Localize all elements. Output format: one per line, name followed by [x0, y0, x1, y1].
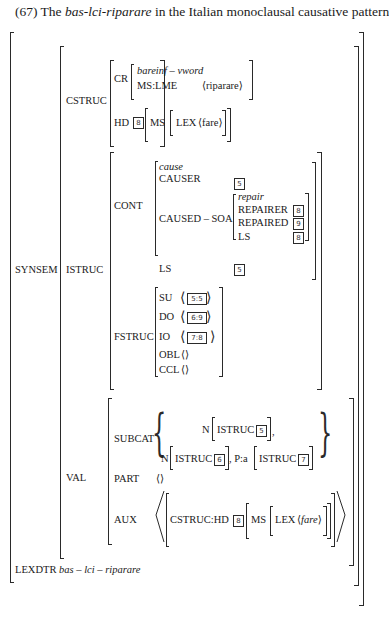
- cont-label: CONT: [114, 201, 143, 212]
- example-title: (67) The bas-lci-riparare in the Italian…: [15, 5, 389, 19]
- soa-ls-tag-box: 8: [293, 232, 304, 244]
- val-label: VAL: [66, 473, 86, 484]
- subcat-tag3-box: 7: [298, 454, 309, 466]
- cr-ms-lme-label: MS:LME: [137, 81, 177, 92]
- repairer-label: REPAIRER: [238, 205, 288, 216]
- istruc-label: ISTRUC: [66, 265, 103, 276]
- title-term: bas-lci-riparare: [65, 4, 152, 19]
- su-angle-open: ⟨: [180, 290, 185, 304]
- repaired-tag-box: 9: [293, 218, 304, 230]
- su-angle-close: ⟩: [206, 290, 211, 304]
- subcat-tag1-box: 5: [256, 425, 267, 437]
- io-angle-close: ⟩: [210, 329, 215, 343]
- su-tag-box: 5:5: [187, 293, 207, 305]
- aux-lex-value: ⟨fare⟩: [297, 515, 322, 526]
- do-label: DO: [159, 312, 174, 323]
- io-label: IO: [159, 332, 170, 343]
- io-angle-open: ⟨: [180, 329, 185, 343]
- do-angle-open: ⟨: [180, 309, 185, 323]
- aux-label: AUX: [114, 515, 137, 526]
- ccl-value: ⟨⟩: [181, 365, 189, 376]
- obl-label: OBL: [159, 350, 180, 361]
- aux-tag-box: 8: [233, 515, 244, 527]
- do-tag-box: 6:9: [187, 312, 207, 324]
- repairer-tag-box: 8: [293, 205, 304, 217]
- subcat-istruc2: ISTRUC: [175, 454, 212, 465]
- cont-ls-label: LS: [159, 264, 171, 275]
- hd-label: HD: [114, 118, 129, 129]
- cont-ls-tag-box: 5: [234, 264, 245, 276]
- title-prefix: (67) The: [15, 4, 65, 19]
- synsem-label: SYNSEM: [15, 265, 58, 276]
- aux-ms-label: MS: [251, 515, 266, 526]
- subcat-brace-open: {: [152, 408, 166, 458]
- part-label: PART: [114, 474, 139, 485]
- cstruc-label: CSTRUC: [66, 96, 107, 107]
- hd-lex-value: ⟨fare⟩: [198, 118, 223, 129]
- hd-ms-label: MS: [150, 118, 165, 129]
- do-angle-close: ⟩: [206, 309, 211, 323]
- fstruc-label: FSTRUC: [114, 332, 154, 343]
- part-value: ⟨⟩: [156, 474, 164, 485]
- ccl-label: CCL: [159, 365, 179, 376]
- subcat-label: SUBCAT: [114, 434, 154, 445]
- subcat-brace-close: }: [318, 408, 332, 458]
- aux-angle-close: [335, 490, 347, 550]
- cr-label: CR: [114, 74, 128, 85]
- su-label: SU: [159, 293, 172, 304]
- aux-lex-fare: fare: [301, 514, 318, 525]
- hd-tag-box: 8: [133, 117, 144, 129]
- repaired-label: REPAIRED: [238, 218, 288, 229]
- subcat-n1: N: [202, 425, 210, 436]
- aux-lex-label: LEX: [275, 515, 295, 526]
- subcat-p: , P:a: [229, 454, 248, 465]
- aux-lex-angle-close: ⟩: [318, 514, 322, 525]
- soa-ls-label: LS: [238, 232, 250, 243]
- subcat-istruc1: ISTRUC: [217, 425, 254, 436]
- causer-tag-box: 5: [234, 178, 245, 190]
- cr-ms-lme-value: ⟨riparare⟩: [202, 81, 243, 92]
- lexdtr-label: LEXDTR: [15, 564, 56, 575]
- cr-type: bareinf – vword: [137, 66, 203, 77]
- causer-label: CAUSER: [159, 174, 200, 185]
- hd-lex-label: LEX: [176, 118, 196, 129]
- caused-soa-type: repair: [238, 192, 264, 203]
- caused-soa-label: CAUSED – SOA: [159, 214, 233, 225]
- subcat-tag2-box: 6: [214, 454, 225, 466]
- io-tag-box: 7:8: [187, 332, 207, 344]
- subcat-comma1: ,: [272, 427, 275, 438]
- cont-type: cause: [159, 162, 183, 173]
- title-suffix: in the Italian monoclausal causative pat…: [152, 4, 389, 19]
- lexdtr-value: bas – lci – riparare: [59, 564, 140, 575]
- subcat-istruc3: ISTRUC: [259, 454, 296, 465]
- obl-value: ⟨⟩: [181, 350, 189, 361]
- aux-angle-open: [154, 490, 166, 550]
- aux-cstruc-hd-label: CSTRUC:HD: [170, 515, 229, 526]
- lexdtr-row: LEXDTR bas – lci – riparare: [15, 565, 140, 576]
- subcat-n2: N: [161, 454, 169, 465]
